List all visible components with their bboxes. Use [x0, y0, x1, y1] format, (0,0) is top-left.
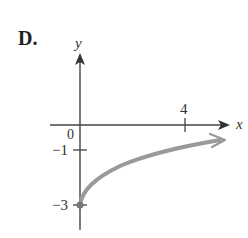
curve-start-point	[77, 202, 84, 209]
origin-label: 0	[67, 127, 74, 142]
y-axis-label: y	[73, 35, 82, 51]
x-tick-label-4: 4	[180, 101, 188, 117]
x-axis-label: x	[235, 116, 243, 132]
y-tick-label-neg3: −3	[52, 197, 68, 213]
y-tick-label-neg1: −1	[52, 142, 68, 158]
curve	[80, 140, 220, 205]
problem-label: D.	[18, 27, 37, 49]
graph: D. x y 0 4 −1 −3	[0, 0, 248, 238]
